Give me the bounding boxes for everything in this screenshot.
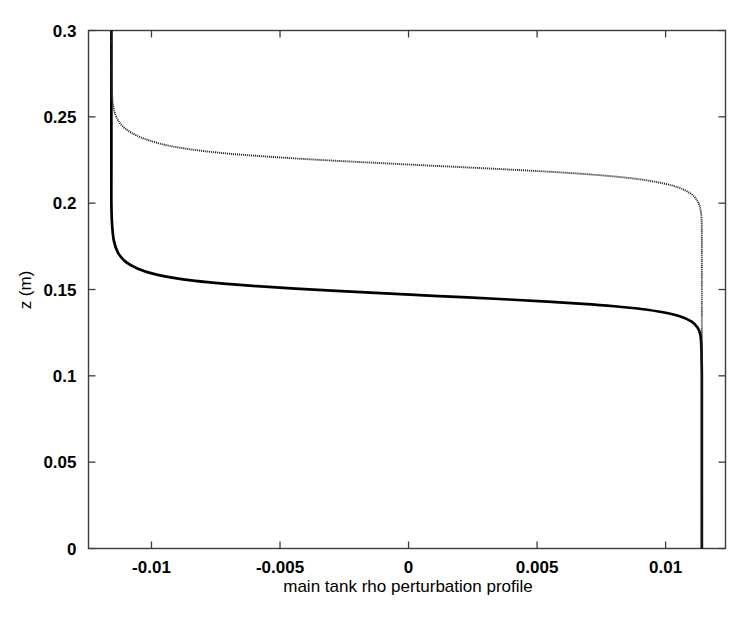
axes-frame (89, 31, 726, 549)
x-tick-label: -0.005 (256, 559, 304, 576)
x-tick-label: 0 (404, 559, 413, 576)
y-tick-label: 0.2 (0, 195, 77, 212)
x-tick-label: 0.01 (649, 559, 682, 576)
x-tick-label: -0.01 (132, 559, 171, 576)
y-axis-title: z (m) (17, 271, 34, 310)
y-tick-label: 0.05 (0, 454, 77, 471)
y-tick-label: 0.25 (0, 108, 77, 125)
x-axis-title: main tank rho perturbation profile (283, 578, 532, 595)
plot-frame (89, 31, 726, 549)
y-tick-label: 0.15 (0, 281, 77, 298)
x-tick-label: 0.005 (516, 559, 559, 576)
y-tick-label: 0.1 (0, 367, 77, 384)
y-tick-label: 0.3 (0, 22, 77, 39)
y-tick-label: 0 (0, 540, 77, 557)
plot-svg (0, 0, 746, 622)
figure-canvas: 00.050.10.150.20.250.3 -0.01-0.00500.005… (0, 0, 746, 622)
